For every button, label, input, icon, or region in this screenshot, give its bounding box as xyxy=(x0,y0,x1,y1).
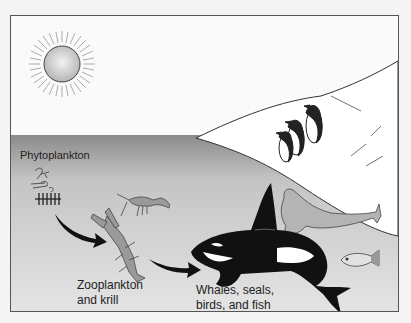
zooplankton-label: Zooplankton and krill xyxy=(77,278,143,308)
food-chain-diagram: Phytoplankton Zooplankton and krill Whal… xyxy=(10,15,399,312)
diagram-illustration xyxy=(11,16,398,311)
phytoplankton-label: Phytoplankton xyxy=(20,149,90,162)
predators-label: Whales, seals, birds, and fish xyxy=(196,283,274,312)
sun-icon xyxy=(29,31,95,97)
